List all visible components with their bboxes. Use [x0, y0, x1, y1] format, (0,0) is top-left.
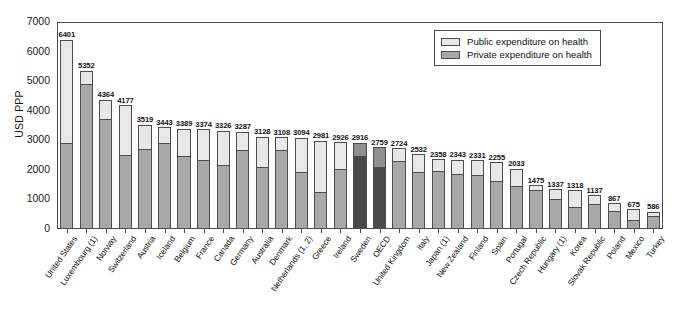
bar-private-segment[interactable] — [569, 207, 580, 228]
x-axis-tick-mark — [204, 229, 205, 233]
legend-label-private: Private expenditure on health — [467, 49, 592, 60]
bar-public-segment[interactable]: 2255 — [490, 162, 503, 229]
bar-private-segment[interactable] — [511, 186, 522, 228]
x-axis-tick-mark — [243, 229, 244, 233]
bar-private-segment[interactable] — [648, 216, 659, 228]
bar-private-segment[interactable] — [315, 192, 326, 228]
chart-legend: Public expenditure on health Private exp… — [434, 30, 601, 66]
bar-private-segment[interactable] — [530, 190, 541, 228]
bar-private-segment[interactable] — [61, 143, 72, 228]
bar-value-label: 2981 — [313, 131, 330, 140]
bar-public-segment[interactable]: 1337 — [549, 189, 562, 229]
bar-value-label: 3519 — [137, 115, 154, 124]
bar-public-segment[interactable]: 2331 — [471, 160, 484, 229]
bar-value-label: 4177 — [117, 96, 134, 105]
bar-private-segment[interactable] — [393, 161, 404, 228]
x-axis-tick-mark — [634, 229, 635, 233]
bar-value-label: 586 — [647, 202, 659, 211]
bar-private-segment[interactable] — [433, 171, 444, 228]
bar-public-segment[interactable]: 5352 — [80, 71, 93, 229]
bar-public-segment[interactable]: 3519 — [138, 125, 151, 229]
bar-private-segment[interactable] — [491, 181, 502, 228]
bar-private-segment[interactable] — [628, 220, 639, 228]
bar-private-segment[interactable] — [452, 174, 463, 228]
bar-private-segment[interactable] — [354, 156, 365, 228]
x-axis-tick-mark — [536, 229, 537, 233]
bar-public-segment[interactable]: 3094 — [295, 138, 308, 229]
bar-public-segment[interactable]: 586 — [647, 212, 660, 229]
x-axis-tick-mark — [575, 229, 576, 233]
bar-public-segment[interactable]: 867 — [608, 203, 621, 229]
bar-value-label: 4364 — [98, 90, 115, 99]
bar-private-segment[interactable] — [609, 211, 620, 228]
bar-private-segment[interactable] — [81, 84, 92, 228]
bar-public-segment[interactable]: 675 — [627, 209, 640, 229]
legend-label-public: Public expenditure on health — [467, 36, 588, 47]
bar-public-segment[interactable]: 4177 — [119, 105, 132, 229]
bar-public-segment[interactable]: 3389 — [177, 129, 190, 229]
bar-public-segment[interactable]: 3287 — [236, 132, 249, 229]
bar-value-label: 3389 — [176, 119, 193, 128]
bar-private-segment[interactable] — [550, 199, 561, 228]
bar-private-segment[interactable] — [374, 167, 385, 228]
bar-value-label: 867 — [608, 194, 620, 203]
bar-public-segment[interactable]: 1137 — [588, 195, 601, 229]
bar-private-segment[interactable] — [472, 175, 483, 228]
x-axis-tick-mark — [419, 229, 420, 233]
bar-public-segment[interactable]: 4364 — [99, 100, 112, 229]
bar-public-segment[interactable]: 2981 — [314, 141, 327, 229]
bar-public-segment[interactable]: 1318 — [568, 190, 581, 229]
bar-public-segment[interactable]: 2033 — [510, 169, 523, 229]
bar-public-segment[interactable]: 3128 — [256, 137, 269, 229]
bar-value-label: 3128 — [254, 127, 271, 136]
x-axis-tick-mark — [321, 229, 322, 233]
bar-private-segment[interactable] — [413, 172, 424, 228]
bar-public-segment[interactable]: 3326 — [217, 131, 230, 229]
bar-private-segment[interactable] — [296, 172, 307, 228]
bar-public-segment[interactable]: 3108 — [275, 137, 288, 229]
bar-value-label: 2916 — [352, 133, 369, 142]
x-axis-tick-mark — [458, 229, 459, 233]
bar-public-segment[interactable]: 2759 — [373, 147, 386, 229]
bar-private-segment[interactable] — [237, 150, 248, 228]
bar-public-segment[interactable]: 2358 — [432, 159, 445, 229]
bar-private-segment[interactable] — [589, 204, 600, 228]
bar-public-segment[interactable]: 2926 — [334, 142, 347, 229]
y-axis-tick-label: 5000 — [10, 75, 50, 86]
legend-swatch-private-icon — [441, 51, 460, 59]
bar-private-segment[interactable] — [139, 149, 150, 228]
x-axis-tick-mark — [282, 229, 283, 233]
x-axis-tick-mark — [67, 229, 68, 233]
x-axis-tick-mark — [360, 229, 361, 233]
x-axis-category-label: Austria — [135, 234, 158, 261]
legend-item-private: Private expenditure on health — [441, 48, 592, 61]
bar-value-label: 1475 — [528, 176, 545, 185]
bar-private-segment[interactable] — [100, 119, 111, 228]
bar-private-segment[interactable] — [335, 169, 346, 228]
bar-value-label: 3443 — [156, 118, 173, 127]
legend-swatch-public-icon — [441, 38, 460, 46]
x-axis-tick-mark — [106, 229, 107, 233]
bar-value-label: 1337 — [547, 180, 564, 189]
bar-public-segment[interactable]: 2343 — [451, 160, 464, 229]
bar-public-segment[interactable]: 2916 — [353, 143, 366, 229]
bar-public-segment[interactable]: 2532 — [412, 154, 425, 229]
x-axis-tick-mark — [516, 229, 517, 233]
bar-private-segment[interactable] — [218, 165, 229, 228]
bar-public-segment[interactable]: 3443 — [158, 127, 171, 229]
x-axis-tick-mark — [438, 229, 439, 233]
bar-public-segment[interactable]: 2724 — [392, 148, 405, 229]
x-axis-tick-mark — [262, 229, 263, 233]
bar-private-segment[interactable] — [178, 156, 189, 228]
bar-public-segment[interactable]: 1475 — [529, 185, 542, 229]
x-axis-tick-mark — [165, 229, 166, 233]
bar-value-label: 2255 — [489, 153, 506, 162]
bar-public-segment[interactable]: 3374 — [197, 129, 210, 229]
bar-public-segment[interactable]: 6401 — [60, 40, 73, 229]
x-axis-tick-mark — [595, 229, 596, 233]
bar-private-segment[interactable] — [276, 150, 287, 228]
bar-private-segment[interactable] — [198, 160, 209, 228]
bar-private-segment[interactable] — [120, 155, 131, 228]
bar-private-segment[interactable] — [257, 167, 268, 228]
bar-private-segment[interactable] — [159, 143, 170, 228]
